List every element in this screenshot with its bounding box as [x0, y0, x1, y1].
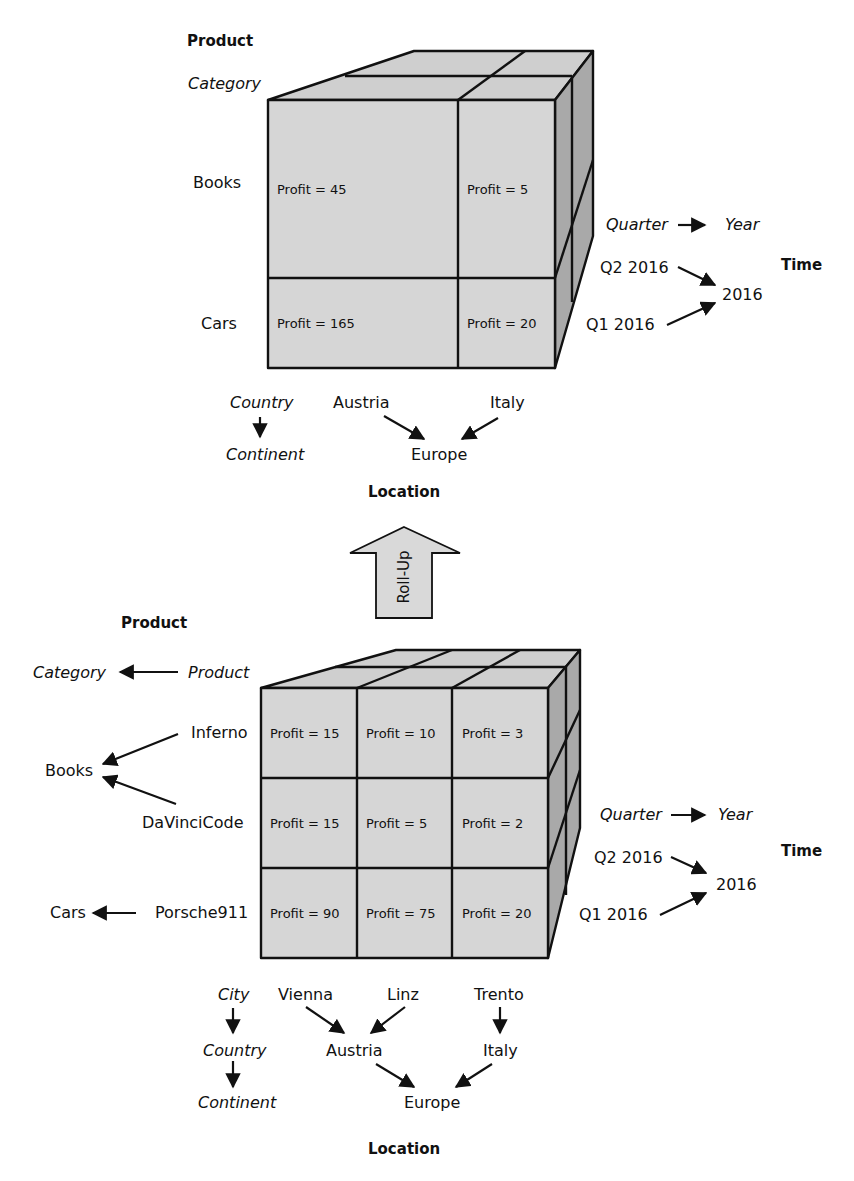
row-label-books: Books	[193, 174, 241, 192]
cell-value: Profit = 20	[462, 906, 532, 921]
location-italy: Italy	[483, 1042, 518, 1060]
roll-up-label: Roll-Up	[395, 547, 413, 607]
base-product-title: Product	[121, 614, 187, 632]
diagram-canvas	[0, 0, 854, 1181]
time-year: 2016	[722, 286, 763, 304]
cell-value: Profit = 15	[270, 726, 340, 741]
cell-value: Profit = 75	[366, 906, 436, 921]
base-product-level: Product	[188, 664, 249, 682]
row-label-cars: Cars	[201, 315, 237, 333]
base-category-level: Category	[33, 664, 106, 682]
location-level-country: Country	[230, 394, 294, 412]
location-linz: Linz	[387, 986, 419, 1004]
cell-value: Profit = 165	[277, 316, 355, 331]
time-title: Time	[781, 842, 822, 860]
row-label-davincicode: DaVinciCode	[142, 814, 244, 832]
time-q2: Q2 2016	[594, 849, 663, 867]
location-title: Location	[368, 1140, 440, 1158]
location-austria: Austria	[326, 1042, 383, 1060]
location-italy: Italy	[490, 394, 525, 412]
cell-value: Profit = 2	[462, 816, 523, 831]
location-vienna: Vienna	[278, 986, 333, 1004]
location-trento: Trento	[474, 986, 524, 1004]
category-books: Books	[45, 762, 93, 780]
time-q1: Q1 2016	[579, 906, 648, 924]
cell-value: Profit = 45	[277, 182, 347, 197]
cell-value: Profit = 20	[467, 316, 537, 331]
row-label-inferno: Inferno	[191, 724, 248, 742]
time-q1: Q1 2016	[586, 316, 655, 334]
time-level-to: Year	[718, 806, 752, 824]
location-level-continent: Continent	[198, 1094, 276, 1112]
row-label-porsche911: Porsche911	[155, 904, 248, 922]
time-level-to: Year	[725, 216, 759, 234]
top-product-level: Category	[188, 75, 261, 93]
cell-value: Profit = 5	[467, 182, 528, 197]
cell-value: Profit = 3	[462, 726, 523, 741]
cell-value: Profit = 10	[366, 726, 436, 741]
cell-value: Profit = 15	[270, 816, 340, 831]
location-europe: Europe	[411, 446, 467, 464]
time-level-from: Quarter	[606, 216, 668, 234]
cube-side-face	[548, 650, 580, 958]
location-europe: Europe	[404, 1094, 460, 1112]
location-austria: Austria	[333, 394, 390, 412]
time-q2: Q2 2016	[600, 259, 669, 277]
top-product-title: Product	[187, 32, 253, 50]
location-title: Location	[368, 483, 440, 501]
cell-value: Profit = 5	[366, 816, 427, 831]
cell-value: Profit = 90	[270, 906, 340, 921]
location-level-continent: Continent	[226, 446, 304, 464]
category-cars: Cars	[50, 904, 86, 922]
location-level-city: City	[218, 986, 249, 1004]
location-level-country: Country	[203, 1042, 267, 1060]
time-title: Time	[781, 256, 822, 274]
time-level-from: Quarter	[600, 806, 662, 824]
cube-top-face	[261, 650, 580, 688]
time-year: 2016	[716, 876, 757, 894]
